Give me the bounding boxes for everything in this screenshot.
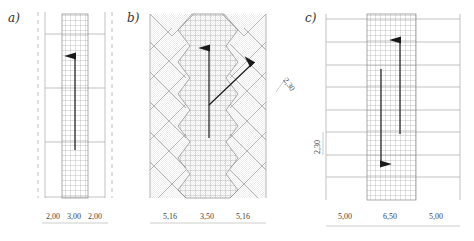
dim-b-side: 2,30 bbox=[281, 76, 296, 93]
dim-a-right: 2,00 bbox=[88, 212, 102, 221]
dim-b-right: 5,16 bbox=[236, 212, 250, 221]
panel-c: c) 5,00 6,50 5,00 2,30 bbox=[305, 11, 460, 226]
grid-strip bbox=[367, 14, 416, 200]
dim-c-center: 6,50 bbox=[383, 212, 397, 221]
panel-a: a) 2,00 3,00 2,00 bbox=[8, 11, 112, 223]
dim-b-center: 3,50 bbox=[200, 212, 214, 221]
dim-a-left: 2,00 bbox=[46, 212, 60, 221]
dim-c-left: 5,00 bbox=[338, 212, 352, 221]
panel-b-label: b) bbox=[127, 11, 140, 25]
diagram-canvas: a) 2,00 3,00 2,00 b) bbox=[0, 0, 474, 241]
grid-hexagon-strip bbox=[178, 14, 238, 198]
dim-b-left: 5,16 bbox=[163, 212, 177, 221]
panel-a-label: a) bbox=[8, 11, 20, 25]
dim-c-right: 5,00 bbox=[429, 212, 443, 221]
panel-b: b) 5,16 3,50 5,16 2,30 bbox=[127, 11, 297, 223]
panel-c-label: c) bbox=[305, 11, 317, 25]
dim-c-side: 2,30 bbox=[313, 140, 322, 154]
dim-a-center: 3,00 bbox=[67, 212, 81, 221]
